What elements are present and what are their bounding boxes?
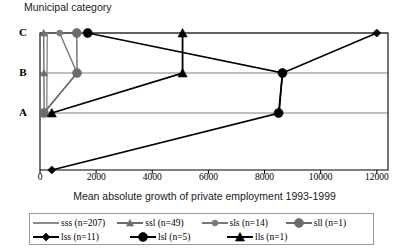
chart-container: Municipal category C B A 020004000600080…: [0, 0, 409, 252]
data-point-marker: [139, 233, 148, 242]
legend-label-lsl: lsl (n=5): [158, 232, 191, 242]
legend-row: sss (n=207)ssl (n=49)sls (n=14)sll (n=1): [33, 216, 370, 230]
legend-item-ssl[interactable]: ssl (n=49): [117, 216, 199, 230]
x-tick-label: 8000: [245, 172, 285, 182]
legend-swatch-lsl: [130, 231, 156, 243]
series-sss: [47, 33, 48, 113]
legend-label-ssl: ssl (n=49): [145, 218, 183, 228]
data-point-marker: [278, 69, 287, 78]
legend-marker-circle-icon: [208, 217, 222, 229]
legend-marker-triangle-icon: [233, 231, 247, 243]
category-label-c: C: [15, 26, 31, 38]
legend-line-icon: [33, 222, 59, 224]
legend-swatch-lls: [227, 231, 253, 243]
legend-item-lsl[interactable]: lsl (n=5): [130, 230, 225, 244]
legend-swatch-ssl: [117, 217, 143, 229]
legend-label-lss: lss (n=11): [61, 232, 99, 242]
series-lss: [48, 29, 381, 174]
legend-label-sll: sll (n=1): [314, 218, 347, 228]
legend-item-lss[interactable]: lss (n=11): [33, 230, 128, 244]
data-point-marker: [274, 109, 283, 118]
legend-swatch-sls: [202, 217, 228, 229]
data-point-marker: [39, 109, 48, 118]
legend-row: lss (n=11)lsl (n=5)lls (n=1): [33, 230, 370, 244]
data-point-marker: [212, 220, 218, 226]
legend-item-sls[interactable]: sls (n=14): [202, 216, 284, 230]
data-point-marker: [373, 29, 381, 37]
legend-marker-circle-icon: [292, 217, 306, 229]
chart-legend: sss (n=207)ssl (n=49)sls (n=14)sll (n=1)…: [29, 213, 374, 245]
legend-item-sss[interactable]: sss (n=207): [33, 216, 115, 230]
legend-marker-circle-icon: [136, 231, 150, 243]
x-tick-label: 6000: [188, 172, 228, 182]
data-point-marker: [73, 69, 82, 78]
legend-swatch-sll: [286, 217, 312, 229]
legend-marker-triangle-icon: [123, 217, 137, 229]
data-point-marker: [83, 29, 92, 38]
legend-marker-diamond-icon: [39, 231, 53, 243]
category-label-a: A: [15, 106, 31, 118]
legend-item-sll[interactable]: sll (n=1): [286, 216, 368, 230]
legend-item-lls[interactable]: lls (n=1): [227, 230, 322, 244]
x-tick-label: 4000: [132, 172, 172, 182]
legend-swatch-lss: [33, 231, 59, 243]
series-line-sss: [47, 33, 48, 113]
data-point-marker: [294, 219, 303, 228]
data-point-marker: [72, 29, 81, 38]
category-label-b: B: [15, 66, 31, 78]
data-point-marker: [235, 232, 244, 241]
legend-swatch-sss: [33, 217, 59, 229]
series-line-lss: [52, 33, 377, 170]
x-axis-title: Mean absolute growth of private employme…: [0, 190, 409, 202]
data-point-marker: [57, 30, 63, 36]
data-point-marker: [127, 219, 134, 226]
x-tick-label: 12000: [357, 172, 397, 182]
legend-label-sls: sls (n=14): [230, 218, 268, 228]
data-point-marker: [42, 233, 50, 241]
x-tick-label: 10000: [301, 172, 341, 182]
x-tick-label: 2000: [76, 172, 116, 182]
x-tick-label: 0: [20, 172, 60, 182]
plot-area: [0, 0, 409, 200]
legend-label-sss: sss (n=207): [61, 218, 105, 228]
legend-label-lls: lls (n=1): [255, 232, 288, 242]
